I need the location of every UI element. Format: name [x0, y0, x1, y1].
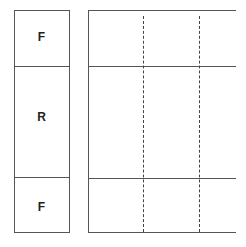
right-grid-dashed-column-2: [199, 16, 200, 232]
right-grid-row-divider-2: [88, 178, 236, 179]
cell-label-top: F: [14, 30, 69, 44]
cell-label-bottom: F: [14, 200, 69, 214]
left-divider-top: [14, 66, 70, 67]
right-grid-left-edge: [88, 10, 89, 233]
left-divider-bottom: [14, 177, 70, 178]
right-grid-top-edge: [88, 10, 236, 11]
cell-label-middle: R: [14, 110, 69, 124]
right-grid-dashed-column-1: [143, 16, 144, 232]
right-grid-row-divider-1: [88, 66, 236, 67]
right-grid-bottom-edge: [88, 232, 236, 233]
